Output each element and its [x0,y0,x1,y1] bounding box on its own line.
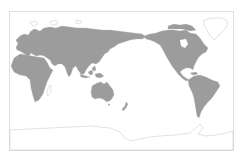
world-map [0,0,243,159]
british-isles [19,37,22,43]
